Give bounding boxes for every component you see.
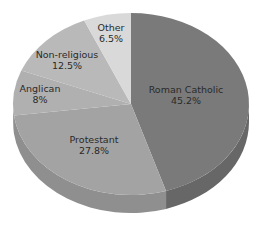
- pie-chart: [0, 0, 265, 225]
- label-other: Other 6.5%: [98, 22, 125, 44]
- label-other-value: 6.5%: [98, 33, 125, 44]
- label-roman-catholic: Roman Catholic 45.2%: [149, 84, 224, 106]
- label-roman-catholic-value: 45.2%: [149, 95, 224, 106]
- label-non-religious-name: Non-religious: [36, 49, 99, 60]
- label-protestant-name: Protestant: [70, 134, 119, 145]
- label-roman-catholic-name: Roman Catholic: [149, 84, 224, 95]
- label-non-religious: Non-religious 12.5%: [36, 49, 99, 71]
- label-other-name: Other: [98, 22, 125, 33]
- label-anglican-value: 8%: [20, 94, 61, 105]
- label-protestant-value: 27.8%: [70, 145, 119, 156]
- label-protestant: Protestant 27.8%: [70, 134, 119, 156]
- label-non-religious-value: 12.5%: [36, 60, 99, 71]
- label-anglican: Anglican 8%: [20, 83, 61, 105]
- label-anglican-name: Anglican: [20, 83, 61, 94]
